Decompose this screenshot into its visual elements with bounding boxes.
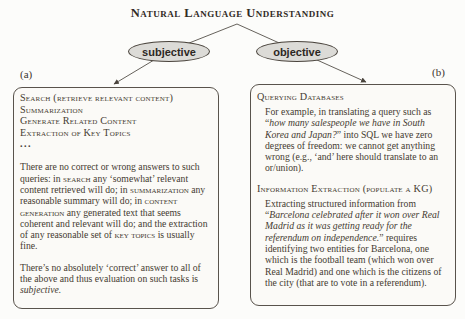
task-generate-related-content: Generate Related Content	[20, 115, 212, 127]
panel-a-paragraph-2: There’s no absolutely ‘correct’ answer t…	[20, 262, 212, 296]
node-subjective-label: subjective	[142, 46, 196, 58]
node-objective-label: objective	[273, 46, 321, 58]
task-summarization: Summarization	[20, 104, 212, 116]
diagram-title: Natural Language Understanding	[0, 6, 465, 21]
task-search: Search (retrieve relevant content)	[20, 92, 212, 104]
text-segment-italic: subjective.	[20, 284, 61, 295]
panel-b-paragraph-2: Extracting structured information from “…	[265, 198, 449, 288]
panel-a-subjective-tasks: Search (retrieve relevant content) Summa…	[13, 87, 219, 309]
heading-information-extraction: Information Extraction (populate a KG)	[257, 183, 449, 195]
panel-a-label: (a)	[20, 68, 32, 80]
panel-a-paragraph-1: There are no correct or wrong answers to…	[20, 161, 212, 251]
task-ellipsis: ...	[20, 138, 212, 149]
text-segment-smallcaps: summarization	[130, 184, 189, 195]
task-extraction-of-key-topics: Extraction of Key Topics	[20, 127, 212, 139]
panel-b-objective-tasks: Querying Databases For example, in trans…	[250, 84, 456, 306]
text-segment-smallcaps: search	[63, 173, 91, 184]
node-subjective: subjective	[128, 41, 210, 62]
text-segment: There’s no absolutely ‘correct’ answer t…	[20, 262, 201, 284]
nlu-taxonomy-figure: Natural Language Understanding subjectiv…	[0, 0, 465, 319]
text-segment-smallcaps: key topics	[114, 229, 155, 240]
node-objective: objective	[256, 41, 338, 62]
panel-b-label: (b)	[432, 66, 445, 78]
panel-b-paragraph-1: For example, in translating a query such…	[265, 106, 449, 174]
heading-querying-databases: Querying Databases	[257, 91, 449, 103]
